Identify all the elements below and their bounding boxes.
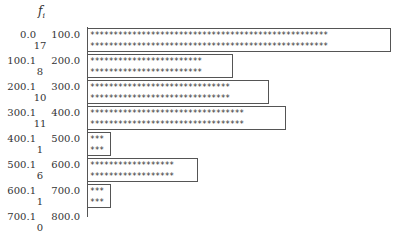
bar-stars-line: ********************************* xyxy=(90,108,244,119)
class-row: 700.1800.00 xyxy=(0,209,395,231)
class-row: 400.1500.01****** xyxy=(0,131,395,157)
class-row: 300.1400.011****************************… xyxy=(0,105,395,131)
class-lower-bound: 100.1 xyxy=(0,55,36,66)
frequency-bar: ****************************************… xyxy=(87,106,286,130)
bar-stars-line: *** xyxy=(90,145,104,156)
class-lower-bound: 200.1 xyxy=(0,81,36,92)
class-upper-bound: 300.0 xyxy=(44,81,80,92)
frequency-bar: ****************************************… xyxy=(87,54,233,78)
class-upper-bound: 700.0 xyxy=(44,185,80,196)
class-frequency: 6 xyxy=(32,170,48,181)
class-upper-bound: 800.0 xyxy=(44,211,80,222)
class-lower-bound: 400.1 xyxy=(0,133,36,144)
class-row: 100.1200.08*****************************… xyxy=(0,53,395,79)
class-upper-bound: 100.0 xyxy=(44,29,80,40)
class-row: 0.0100.017******************************… xyxy=(0,27,395,53)
class-frequency: 10 xyxy=(32,92,48,103)
class-frequency: 17 xyxy=(32,40,48,51)
class-row: 600.1700.01****** xyxy=(0,183,395,209)
bar-stars-line: ****************************************… xyxy=(90,30,328,41)
bar-stars-line: ****************** xyxy=(90,160,174,171)
class-lower-bound: 500.1 xyxy=(0,159,36,170)
class-upper-bound: 500.0 xyxy=(44,133,80,144)
frequency-column-header: fi xyxy=(38,4,45,20)
class-lower-bound: 600.1 xyxy=(0,185,36,196)
bar-stars-line: *** xyxy=(90,186,104,197)
class-upper-bound: 400.0 xyxy=(44,107,80,118)
class-frequency: 11 xyxy=(32,118,48,129)
bar-stars-line: ****************************************… xyxy=(90,41,328,52)
class-row: 500.1600.06*****************************… xyxy=(0,157,395,183)
class-frequency: 1 xyxy=(32,196,48,207)
class-upper-bound: 600.0 xyxy=(44,159,80,170)
class-frequency: 8 xyxy=(32,66,48,77)
frequency-bar: ****************************************… xyxy=(87,80,269,104)
class-row: 200.1300.010****************************… xyxy=(0,79,395,105)
bar-stars-line: ************************ xyxy=(90,56,202,67)
class-lower-bound: 300.1 xyxy=(0,107,36,118)
class-upper-bound: 200.0 xyxy=(44,55,80,66)
frequency-bar: ****************************************… xyxy=(87,28,391,52)
class-frequency: 0 xyxy=(32,222,48,231)
bar-stars-line: *** xyxy=(90,197,104,208)
class-lower-bound: 0.0 xyxy=(0,29,36,40)
bar-stars-line: ****************** xyxy=(90,171,174,182)
frequency-bar: ****** xyxy=(87,184,111,208)
bar-stars-line: ****************************** xyxy=(90,93,230,104)
bar-stars-line: ********************************* xyxy=(90,119,244,130)
frequency-bar: ************************************ xyxy=(87,158,198,182)
bar-stars-line: ************************ xyxy=(90,67,202,78)
class-lower-bound: 700.1 xyxy=(0,211,36,222)
class-frequency: 1 xyxy=(32,144,48,155)
bar-stars-line: *** xyxy=(90,134,104,145)
bar-stars-line: ****************************** xyxy=(90,82,230,93)
frequency-bar: ****** xyxy=(87,132,111,156)
